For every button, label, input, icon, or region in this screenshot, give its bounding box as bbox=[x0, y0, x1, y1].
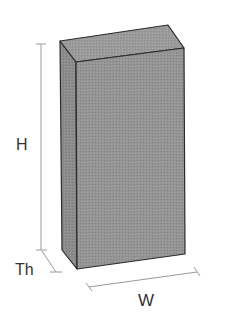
block-left-face bbox=[60, 41, 77, 269]
thickness-dimension bbox=[42, 251, 62, 272]
block-dimension-diagram: H Th W bbox=[0, 0, 229, 330]
block bbox=[60, 25, 185, 269]
height-label: H bbox=[16, 136, 28, 153]
block-front-face bbox=[76, 48, 185, 269]
height-dimension bbox=[36, 44, 47, 250]
width-label: W bbox=[138, 291, 154, 310]
thickness-label: Th bbox=[15, 261, 34, 278]
width-dimension bbox=[86, 267, 200, 291]
